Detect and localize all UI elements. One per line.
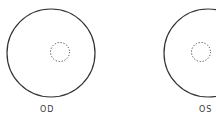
os-outer-circle — [164, 9, 216, 97]
os-label: OS — [199, 105, 212, 114]
eye-diagram — [0, 0, 216, 127]
od-dotted-circle — [51, 43, 70, 62]
od-label: OD — [40, 105, 54, 114]
os-dotted-circle — [192, 43, 211, 62]
od-outer-circle — [7, 9, 95, 97]
